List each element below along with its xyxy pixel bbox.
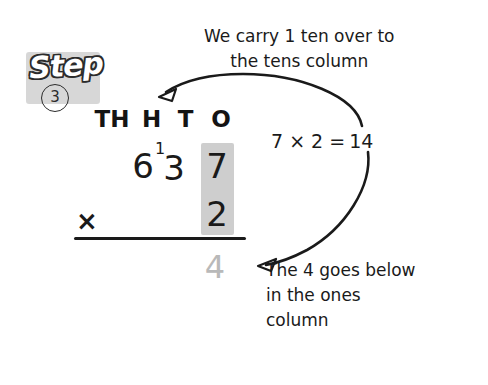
annotation-carry-line-2: the tens column <box>204 49 395 74</box>
column-header-h-label: H <box>142 106 161 132</box>
step-badge: Step 3 <box>26 48 104 112</box>
partial-answer-digit: 4 <box>200 248 230 286</box>
annotation-ones-line-1: The 4 goes below <box>266 258 415 283</box>
column-header-th: TH <box>90 104 134 134</box>
multiplier-digit: 2 <box>203 194 231 234</box>
annotation-ones-line-2: in the ones <box>266 283 415 308</box>
column-header-t-label: T <box>178 106 194 132</box>
side-equation: 7 × 2 =14 <box>271 128 376 154</box>
answer-rule-line <box>74 237 246 240</box>
carry-arrowhead <box>159 89 176 101</box>
column-header-h: H <box>138 104 165 134</box>
side-equation-result: 14 <box>346 128 376 154</box>
multiplicand-digit-tens: 3 <box>161 148 187 188</box>
annotation-carry-line-1: We carry 1 ten over to <box>204 24 395 49</box>
side-equation-result-value: 14 <box>349 130 373 152</box>
worksheet-canvas: Step 3 TH H T O 6 1 3 7 2 × 4 7 × 2 =14 … <box>0 0 488 385</box>
step-label: Step <box>28 45 104 85</box>
multiplicand-digit-ones: 7 <box>203 146 231 186</box>
column-header-o-label: O <box>211 106 231 132</box>
ones-arrow <box>258 152 368 271</box>
side-equation-expression: 7 × 2 = <box>271 130 345 152</box>
annotation-ones-note: The 4 goes below in the ones column <box>266 258 415 333</box>
column-header-th-label: TH <box>95 106 130 132</box>
column-header-o: O <box>206 104 236 134</box>
column-header-t: T <box>172 104 199 134</box>
annotation-ones-line-3: column <box>266 308 415 333</box>
step-number-circle: 3 <box>41 84 69 112</box>
multiplication-operator: × <box>76 206 98 236</box>
annotation-carry-note: We carry 1 ten over to the tens column <box>204 24 395 74</box>
